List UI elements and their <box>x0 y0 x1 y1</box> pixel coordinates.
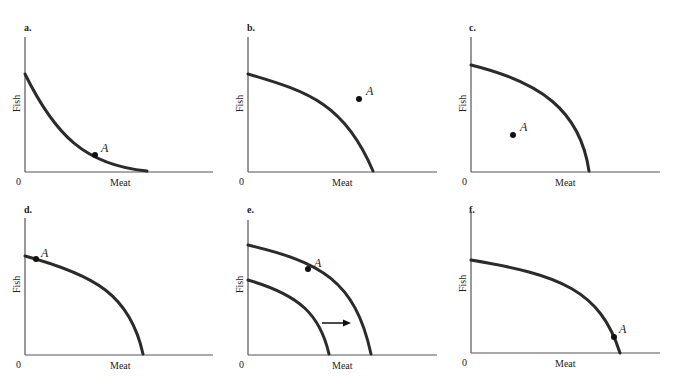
point-label: A <box>313 256 322 270</box>
point-label: A <box>519 120 528 134</box>
panel-e: e. 0 Meat Fish A <box>234 204 437 371</box>
ppf-curve <box>471 65 589 171</box>
panel-a: a. 0 Meat Fish A <box>11 22 213 188</box>
x-axis-label: Meat <box>555 358 576 369</box>
ppf-curve-original <box>248 280 329 354</box>
point-label: A <box>365 84 374 98</box>
panel-label: b. <box>247 22 256 33</box>
x-axis-label: Meat <box>332 177 353 188</box>
arrow-right-icon <box>343 320 351 327</box>
panel-c: c. 0 Meat Fish A <box>457 22 660 188</box>
origin-label: 0 <box>462 176 467 187</box>
point-a <box>33 256 39 262</box>
panel-b: b. 0 Meat Fish A <box>234 22 437 188</box>
x-axis-label: Meat <box>110 177 131 188</box>
origin-label: 0 <box>462 357 467 368</box>
y-axis-label: Fish <box>457 95 468 112</box>
panel-d: d. 0 Meat Fish A <box>11 204 213 371</box>
ppf-figure: a. 0 Meat Fish A b. 0 Meat Fish A c. 0 M… <box>0 0 673 391</box>
point-label: A <box>100 141 109 155</box>
origin-label: 0 <box>239 176 244 187</box>
point-a <box>611 334 617 340</box>
point-a <box>356 96 362 102</box>
panel-label: d. <box>24 204 33 215</box>
panel-label: a. <box>24 22 32 33</box>
y-axis-label: Fish <box>457 275 468 292</box>
panel-label: c. <box>469 22 476 33</box>
ppf-curve <box>471 260 620 353</box>
point-a <box>305 266 311 272</box>
ppf-curve <box>248 74 373 171</box>
panel-label: e. <box>247 204 254 215</box>
x-axis-label: Meat <box>555 177 576 188</box>
x-axis-label: Meat <box>110 360 131 371</box>
origin-label: 0 <box>16 176 21 187</box>
point-a <box>92 152 98 158</box>
ppf-curve <box>25 256 143 354</box>
x-axis-label: Meat <box>332 360 353 371</box>
ppf-curve-shifted <box>248 245 371 354</box>
point-label: A <box>40 246 49 260</box>
origin-label: 0 <box>239 359 244 370</box>
y-axis-label: Fish <box>234 276 245 293</box>
origin-label: 0 <box>16 359 21 370</box>
y-axis-label: Fish <box>234 95 245 112</box>
point-a <box>510 132 516 138</box>
y-axis-label: Fish <box>11 276 22 293</box>
point-label: A <box>618 322 627 336</box>
ppf-curve <box>25 74 147 171</box>
panel-label: f. <box>469 204 475 215</box>
y-axis-label: Fish <box>11 95 22 112</box>
panel-f: f. 0 Meat Fish A <box>457 204 660 369</box>
